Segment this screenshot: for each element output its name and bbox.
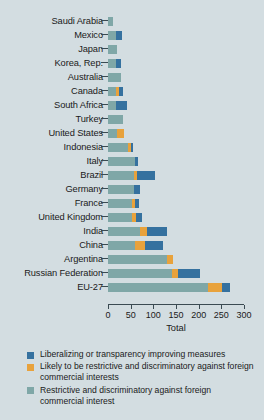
bar-segment — [117, 129, 124, 138]
bar-row-label: Korea, Rep. — [54, 56, 103, 70]
y-axis-tick — [101, 118, 108, 119]
bar-row-label: United States — [48, 126, 103, 140]
stacked-bar — [108, 171, 155, 180]
stacked-bar — [108, 129, 124, 138]
x-axis-title: Total — [108, 323, 244, 333]
x-axis-tick-label: 50 — [126, 310, 136, 320]
bar-segment — [178, 269, 200, 278]
bar-segment — [135, 199, 139, 208]
stacked-bar — [108, 101, 127, 110]
x-axis-tick — [108, 305, 109, 309]
bar-segment — [108, 143, 128, 152]
legend-item-label: Liberalizing or transparency improving m… — [40, 349, 257, 360]
bar-row: Italy — [0, 154, 264, 168]
x-axis-tick-label: 100 — [146, 310, 161, 320]
bar-row: Saudi Arabia — [0, 14, 264, 28]
stacked-bar — [108, 157, 138, 166]
x-axis-tick-label: 250 — [214, 310, 229, 320]
stacked-bar — [108, 227, 167, 236]
y-axis-tick — [101, 286, 108, 287]
bar-segment — [145, 241, 163, 250]
bar-segment — [108, 241, 135, 250]
y-axis-tick — [101, 216, 108, 217]
bar-row-label: China — [79, 238, 103, 252]
stacked-bar — [108, 73, 121, 82]
bar-segment — [134, 185, 140, 194]
bar-row-label: Saudi Arabia — [51, 14, 103, 28]
bar-row-label: Indonesia — [64, 140, 103, 154]
stacked-bar — [108, 269, 200, 278]
y-axis-tick — [101, 160, 108, 161]
stacked-bar — [108, 283, 230, 292]
bar-row: Mexico — [0, 28, 264, 42]
stacked-bar — [108, 17, 113, 26]
bar-row-label: France — [75, 196, 103, 210]
y-axis-tick — [101, 230, 108, 231]
y-axis-tick — [101, 188, 108, 189]
bar-row-label: Australia — [68, 70, 103, 84]
stacked-bar — [108, 241, 163, 250]
bar-segment — [137, 171, 155, 180]
x-axis-tick-label: 150 — [168, 310, 183, 320]
y-axis-tick — [101, 146, 108, 147]
y-axis-tick — [101, 244, 108, 245]
stacked-bar — [108, 115, 123, 124]
bar-segment — [108, 269, 172, 278]
legend-item: Likely to be restrictive and discriminat… — [27, 361, 257, 383]
bar-row: Korea, Rep. — [0, 56, 264, 70]
x-axis-tick-label: 0 — [105, 310, 110, 320]
y-axis-tick — [101, 272, 108, 273]
bar-row-label: Brazil — [80, 168, 103, 182]
x-axis-tick — [131, 305, 132, 309]
legend-swatch-restrictive — [27, 387, 34, 394]
bar-segment — [116, 31, 122, 40]
bar-segment — [108, 101, 116, 110]
x-axis-tick — [176, 305, 177, 309]
bar-segment — [136, 213, 142, 222]
bar-segment — [108, 283, 208, 292]
bar-segment — [108, 157, 135, 166]
bar-segment — [135, 157, 138, 166]
bar-segment — [108, 17, 113, 26]
bar-segment — [108, 199, 132, 208]
stacked-bar — [108, 213, 142, 222]
bar-row: Germany — [0, 182, 264, 196]
y-axis-tick — [101, 90, 108, 91]
y-axis-tick — [101, 202, 108, 203]
legend-item-label: Restrictive and discriminatory against f… — [40, 385, 257, 407]
bar-row: South Africa — [0, 98, 264, 112]
bar-row: United States — [0, 126, 264, 140]
y-axis-tick — [101, 104, 108, 105]
bar-row-label: Italy — [86, 154, 103, 168]
bar-row-label: Argentina — [64, 252, 103, 266]
bar-row: United Kingdom — [0, 210, 264, 224]
bar-segment — [108, 213, 132, 222]
bar-segment — [147, 227, 168, 236]
bar-segment — [108, 31, 116, 40]
stacked-bar — [108, 185, 140, 194]
stacked-bar — [108, 45, 117, 54]
chart-x-axis: 050100150200250300 Total — [0, 304, 264, 350]
x-axis-tick-label: 200 — [191, 310, 206, 320]
bar-segment — [108, 185, 134, 194]
bar-row: Japan — [0, 42, 264, 56]
bar-segment — [108, 45, 117, 54]
chart-figure: Saudi ArabiaMexicoJapanKorea, Rep.Austra… — [0, 0, 264, 420]
bar-segment — [108, 115, 123, 124]
bar-row: Turkey — [0, 112, 264, 126]
bar-row-label: EU-27 — [77, 280, 103, 294]
bar-segment — [135, 241, 145, 250]
legend-item-label: Likely to be restrictive and discriminat… — [40, 361, 257, 383]
bar-segment — [108, 171, 134, 180]
stacked-bar — [108, 59, 121, 68]
y-axis-tick — [101, 132, 108, 133]
stacked-bar — [108, 255, 173, 264]
bar-segment — [222, 283, 230, 292]
bar-segment — [116, 101, 127, 110]
bar-row: Australia — [0, 70, 264, 84]
y-axis-tick — [101, 20, 108, 21]
y-axis-tick — [101, 48, 108, 49]
bar-segment — [131, 143, 133, 152]
stacked-bar — [108, 87, 123, 96]
bar-segment — [167, 255, 173, 264]
